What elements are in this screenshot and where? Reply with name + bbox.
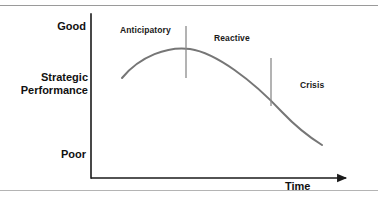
performance-curve (122, 48, 322, 145)
phase-label-crisis: Crisis (300, 80, 324, 90)
y-axis-title-line1: Strategic (41, 71, 88, 83)
figure-container: Good Strategic Performance Poor Time Ant… (0, 0, 378, 205)
phase-label-anticipatory: Anticipatory (120, 25, 171, 35)
phase-label-reactive: Reactive (214, 33, 250, 43)
y-axis-tick-label-good: Good (57, 20, 86, 33)
x-axis-title: Time (285, 180, 310, 192)
y-axis-tick-label-poor: Poor (61, 148, 86, 161)
y-axis-title-line2: Performance (21, 84, 88, 97)
y-axis-title: Strategic Performance (21, 71, 88, 97)
